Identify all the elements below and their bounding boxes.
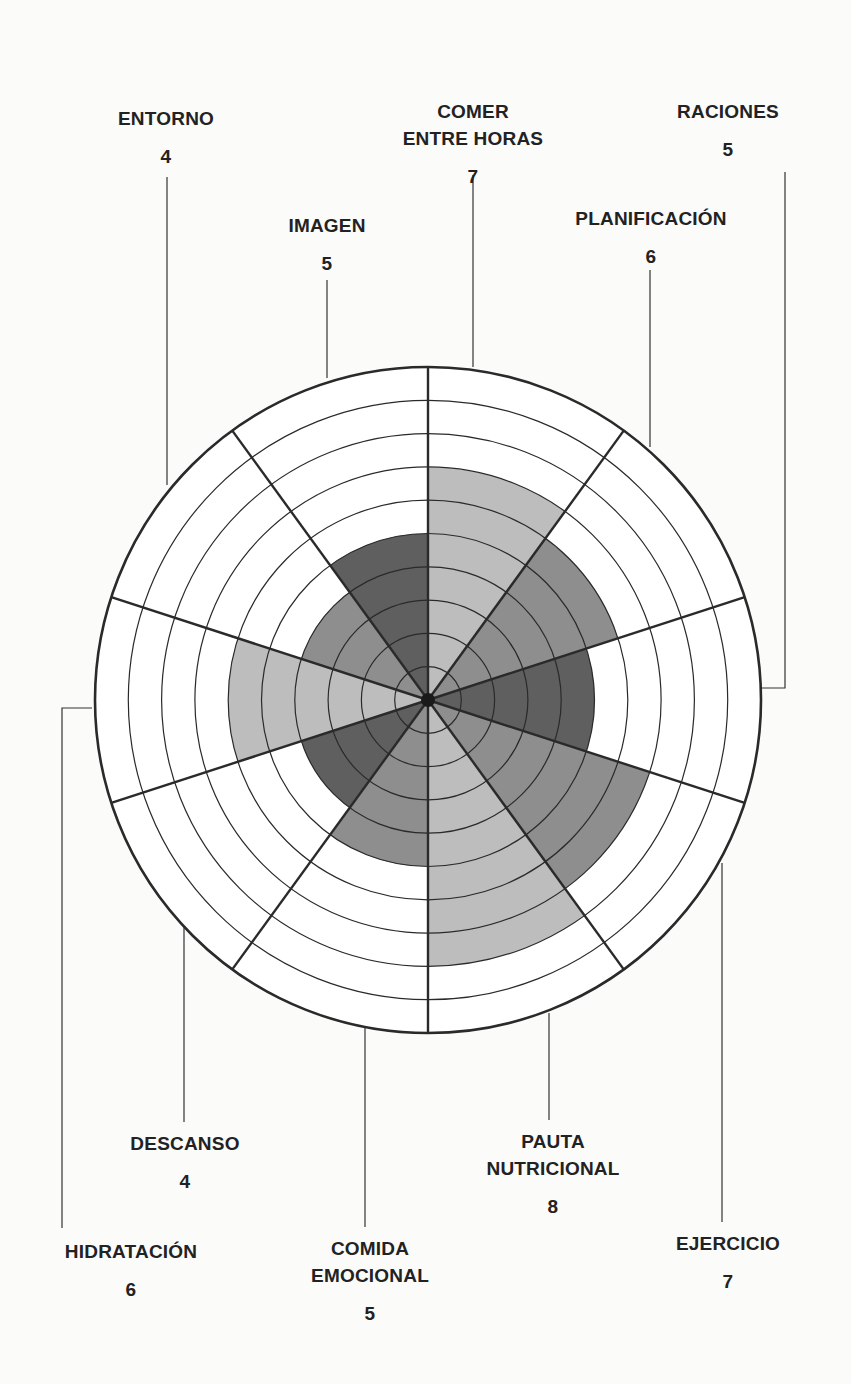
- category-name: PAUTA: [486, 1128, 619, 1155]
- category-name: COMIDA: [311, 1235, 429, 1262]
- wheel: [95, 367, 761, 1033]
- label-pauta-nutricional: PAUTANUTRICIONAL8: [486, 1128, 619, 1220]
- category-score: 4: [118, 143, 214, 170]
- leader-raciones: [762, 172, 785, 688]
- category-name: COMER: [403, 98, 544, 125]
- label-hidratacion: HIDRATACIÓN6: [65, 1238, 197, 1303]
- category-score: 5: [311, 1300, 429, 1327]
- category-name: EJERCICIO: [676, 1230, 780, 1257]
- category-name: EMOCIONAL: [311, 1262, 429, 1289]
- label-entorno: ENTORNO4: [118, 105, 214, 170]
- label-planificacion: PLANIFICACIÓN6: [575, 205, 726, 270]
- category-score: 4: [130, 1168, 239, 1195]
- category-score: 7: [676, 1268, 780, 1295]
- category-name: ENTORNO: [118, 105, 214, 132]
- category-name: HIDRATACIÓN: [65, 1238, 197, 1265]
- category-name: PLANIFICACIÓN: [575, 205, 726, 232]
- category-name: ENTRE HORAS: [403, 125, 544, 152]
- category-score: 7: [403, 163, 544, 190]
- category-score: 6: [575, 243, 726, 270]
- label-ejercicio: EJERCICIO7: [676, 1230, 780, 1295]
- label-comer-entre-horas: COMERENTRE HORAS7: [403, 98, 544, 190]
- label-descanso: DESCANSO4: [130, 1130, 239, 1195]
- label-imagen: IMAGEN5: [288, 212, 365, 277]
- label-comida-emocional: COMIDAEMOCIONAL5: [311, 1235, 429, 1327]
- category-name: DESCANSO: [130, 1130, 239, 1157]
- category-score: 8: [486, 1193, 619, 1220]
- category-name: IMAGEN: [288, 212, 365, 239]
- category-score: 5: [288, 250, 365, 277]
- category-name: NUTRICIONAL: [486, 1155, 619, 1182]
- leader-hidratacion: [62, 708, 92, 1228]
- label-raciones: RACIONES5: [677, 98, 779, 163]
- category-score: 6: [65, 1276, 197, 1303]
- center-dot: [421, 693, 435, 707]
- category-name: RACIONES: [677, 98, 779, 125]
- category-score: 5: [677, 136, 779, 163]
